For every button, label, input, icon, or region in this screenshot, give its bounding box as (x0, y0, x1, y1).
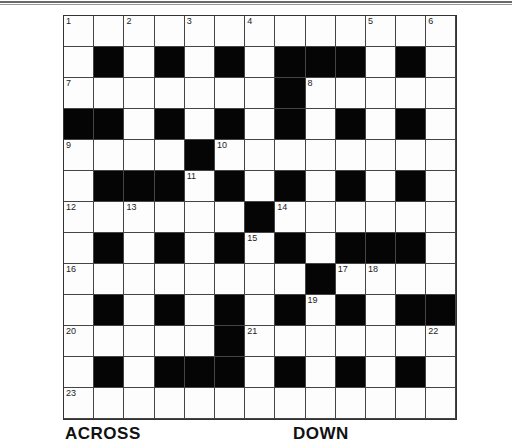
crossword-cell[interactable] (185, 388, 215, 419)
crossword-cell[interactable]: 21 (245, 326, 275, 357)
crossword-cell[interactable] (64, 357, 94, 388)
crossword-cell[interactable] (155, 264, 185, 295)
crossword-cell[interactable] (336, 16, 366, 47)
crossword-cell[interactable] (366, 171, 396, 202)
crossword-cell[interactable] (155, 388, 185, 419)
crossword-cell[interactable] (306, 388, 336, 419)
crossword-cell[interactable] (366, 202, 396, 233)
crossword-cell[interactable]: 16 (64, 264, 94, 295)
crossword-cell[interactable]: 17 (336, 264, 366, 295)
crossword-cell[interactable]: 22 (426, 326, 456, 357)
crossword-cell[interactable] (245, 47, 275, 78)
crossword-cell[interactable] (336, 388, 366, 419)
crossword-cell[interactable] (426, 171, 456, 202)
crossword-cell[interactable] (124, 109, 154, 140)
crossword-cell[interactable] (94, 140, 124, 171)
crossword-cell[interactable] (245, 109, 275, 140)
crossword-cell[interactable]: 2 (124, 16, 154, 47)
crossword-cell[interactable] (245, 357, 275, 388)
crossword-cell[interactable] (306, 140, 336, 171)
crossword-cell[interactable] (275, 140, 305, 171)
crossword-cell[interactable] (275, 326, 305, 357)
crossword-cell[interactable] (426, 202, 456, 233)
crossword-cell[interactable]: 9 (64, 140, 94, 171)
crossword-cell[interactable] (124, 78, 154, 109)
crossword-cell[interactable] (306, 109, 336, 140)
crossword-cell[interactable] (155, 78, 185, 109)
crossword-cell[interactable] (366, 109, 396, 140)
crossword-cell[interactable] (366, 47, 396, 78)
crossword-cell[interactable] (245, 295, 275, 326)
crossword-cell[interactable] (396, 140, 426, 171)
crossword-cell[interactable] (245, 171, 275, 202)
crossword-cell[interactable] (215, 388, 245, 419)
crossword-cell[interactable]: 20 (64, 326, 94, 357)
crossword-cell[interactable]: 1 (64, 16, 94, 47)
crossword-cell[interactable]: 8 (306, 78, 336, 109)
crossword-cell[interactable] (245, 140, 275, 171)
crossword-cell[interactable] (426, 109, 456, 140)
crossword-cell[interactable] (366, 295, 396, 326)
crossword-cell[interactable] (426, 264, 456, 295)
crossword-cell[interactable] (94, 326, 124, 357)
crossword-cell[interactable] (185, 233, 215, 264)
crossword-cell[interactable] (64, 47, 94, 78)
crossword-cell[interactable] (124, 295, 154, 326)
crossword-cell[interactable] (94, 78, 124, 109)
crossword-cell[interactable] (306, 16, 336, 47)
crossword-cell[interactable] (124, 140, 154, 171)
crossword-cell[interactable] (336, 78, 366, 109)
crossword-cell[interactable] (94, 264, 124, 295)
crossword-cell[interactable] (185, 264, 215, 295)
crossword-cell[interactable] (306, 233, 336, 264)
crossword-cell[interactable] (275, 16, 305, 47)
crossword-cell[interactable] (396, 202, 426, 233)
crossword-cell[interactable]: 7 (64, 78, 94, 109)
crossword-cell[interactable] (426, 78, 456, 109)
crossword-cell[interactable]: 10 (215, 140, 245, 171)
crossword-cell[interactable] (396, 326, 426, 357)
crossword-cell[interactable]: 4 (245, 16, 275, 47)
crossword-cell[interactable] (185, 47, 215, 78)
crossword-cell[interactable] (124, 357, 154, 388)
crossword-cell[interactable] (426, 47, 456, 78)
crossword-cell[interactable] (426, 388, 456, 419)
crossword-cell[interactable] (426, 357, 456, 388)
crossword-cell[interactable] (306, 171, 336, 202)
crossword-cell[interactable] (336, 326, 366, 357)
crossword-cell[interactable] (124, 47, 154, 78)
crossword-cell[interactable] (396, 16, 426, 47)
crossword-cell[interactable]: 14 (275, 202, 305, 233)
crossword-cell[interactable] (245, 264, 275, 295)
crossword-cell[interactable] (185, 295, 215, 326)
crossword-cell[interactable] (94, 388, 124, 419)
crossword-cell[interactable] (215, 16, 245, 47)
crossword-cell[interactable] (185, 326, 215, 357)
crossword-cell[interactable]: 5 (366, 16, 396, 47)
crossword-cell[interactable] (306, 357, 336, 388)
crossword-cell[interactable] (366, 357, 396, 388)
crossword-cell[interactable] (366, 388, 396, 419)
crossword-cell[interactable] (426, 233, 456, 264)
crossword-cell[interactable] (306, 202, 336, 233)
crossword-cell[interactable] (396, 264, 426, 295)
crossword-cell[interactable] (155, 16, 185, 47)
crossword-cell[interactable] (396, 388, 426, 419)
crossword-cell[interactable] (94, 202, 124, 233)
crossword-cell[interactable]: 18 (366, 264, 396, 295)
crossword-cell[interactable] (366, 78, 396, 109)
crossword-cell[interactable] (64, 295, 94, 326)
crossword-cell[interactable]: 23 (64, 388, 94, 419)
crossword-cell[interactable]: 19 (306, 295, 336, 326)
crossword-cell[interactable] (275, 264, 305, 295)
crossword-cell[interactable] (124, 388, 154, 419)
crossword-cell[interactable] (185, 78, 215, 109)
crossword-cell[interactable] (215, 264, 245, 295)
crossword-cell[interactable]: 12 (64, 202, 94, 233)
crossword-cell[interactable] (124, 264, 154, 295)
crossword-cell[interactable] (336, 202, 366, 233)
crossword-cell[interactable] (64, 233, 94, 264)
crossword-cell[interactable] (94, 16, 124, 47)
crossword-cell[interactable] (275, 388, 305, 419)
crossword-cell[interactable] (245, 78, 275, 109)
